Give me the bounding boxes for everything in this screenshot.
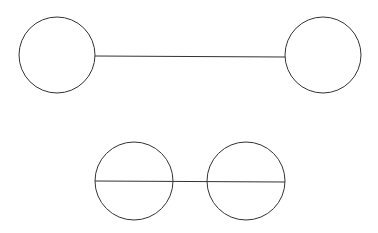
top-connector-line [95, 56, 285, 57]
top-pair [19, 17, 361, 93]
bottom-pair [95, 142, 285, 220]
bottom-connector-line [95, 181, 285, 182]
diagram-canvas [0, 0, 378, 233]
bottom-right-circle [207, 142, 285, 220]
top-right-circle [285, 17, 361, 93]
top-left-circle [19, 17, 95, 93]
